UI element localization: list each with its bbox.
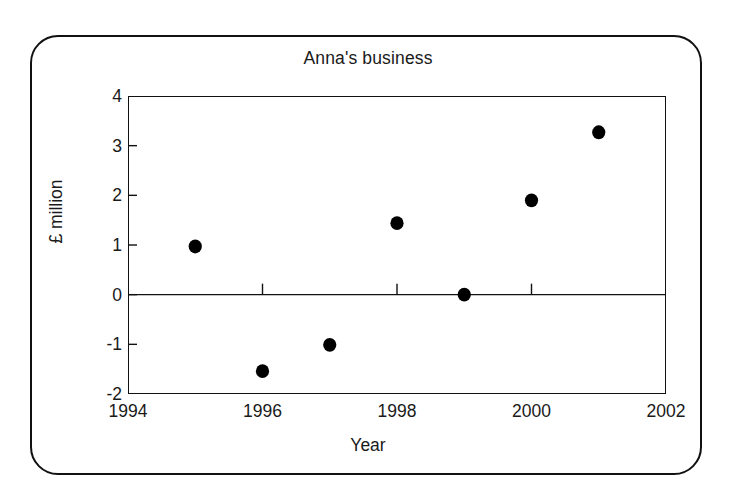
y-axis-title: £ million xyxy=(46,152,67,272)
scatter-plot xyxy=(128,96,666,394)
y-tick-label: 0 xyxy=(88,286,122,304)
data-point-1995 xyxy=(189,240,202,254)
y-tick-label: 3 xyxy=(88,137,122,155)
x-axis-title: Year xyxy=(32,435,704,456)
x-tick-label: 1996 xyxy=(228,401,298,422)
y-axis-tick-labels: -2-101234 xyxy=(82,96,122,394)
x-tick-label: 1994 xyxy=(93,401,163,422)
data-point-2000 xyxy=(525,193,538,207)
y-tick-label: 1 xyxy=(88,236,122,254)
x-tick-label: 2002 xyxy=(631,401,701,422)
data-point-1998 xyxy=(390,216,403,230)
y-tick-label: 4 xyxy=(88,87,122,105)
y-tick-label: -1 xyxy=(88,335,122,353)
y-tick-label: 2 xyxy=(88,186,122,204)
figure-card: Anna's business £ million -2-101234 1994… xyxy=(30,35,702,475)
x-tick-label: 1998 xyxy=(362,401,432,422)
data-point-2001 xyxy=(592,125,605,139)
x-axis-tick-labels: 19941996199820002002 xyxy=(128,401,666,427)
data-point-1996 xyxy=(256,364,269,378)
x-tick-label: 2000 xyxy=(497,401,567,422)
page-title: Anna's business xyxy=(32,48,704,69)
data-point-1997 xyxy=(323,338,336,352)
data-point-1999 xyxy=(458,288,471,302)
plot-area xyxy=(128,96,666,394)
